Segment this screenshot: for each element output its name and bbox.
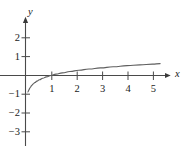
- y-axis-label: y: [28, 7, 33, 18]
- y-tick-label-neg2: −2: [4, 108, 20, 119]
- y-tick-label-neg3: −3: [4, 127, 20, 138]
- plot-canvas: [0, 0, 190, 146]
- x-tick-label-2: 2: [71, 84, 83, 95]
- log-function-graph-figure: 2 1 −1 −2 −3 1 2 3 4 5 y x: [0, 0, 190, 146]
- x-axis-label: x: [175, 69, 180, 80]
- y-tick-label-neg1: −1: [4, 89, 20, 100]
- x-tick-label-3: 3: [97, 84, 109, 95]
- x-tick-label-1: 1: [46, 84, 58, 95]
- x-tick-label-5: 5: [147, 84, 159, 95]
- y-tick-label-1: 1: [8, 52, 20, 63]
- y-tick-label-2: 2: [8, 33, 20, 44]
- x-tick-label-4: 4: [122, 84, 134, 95]
